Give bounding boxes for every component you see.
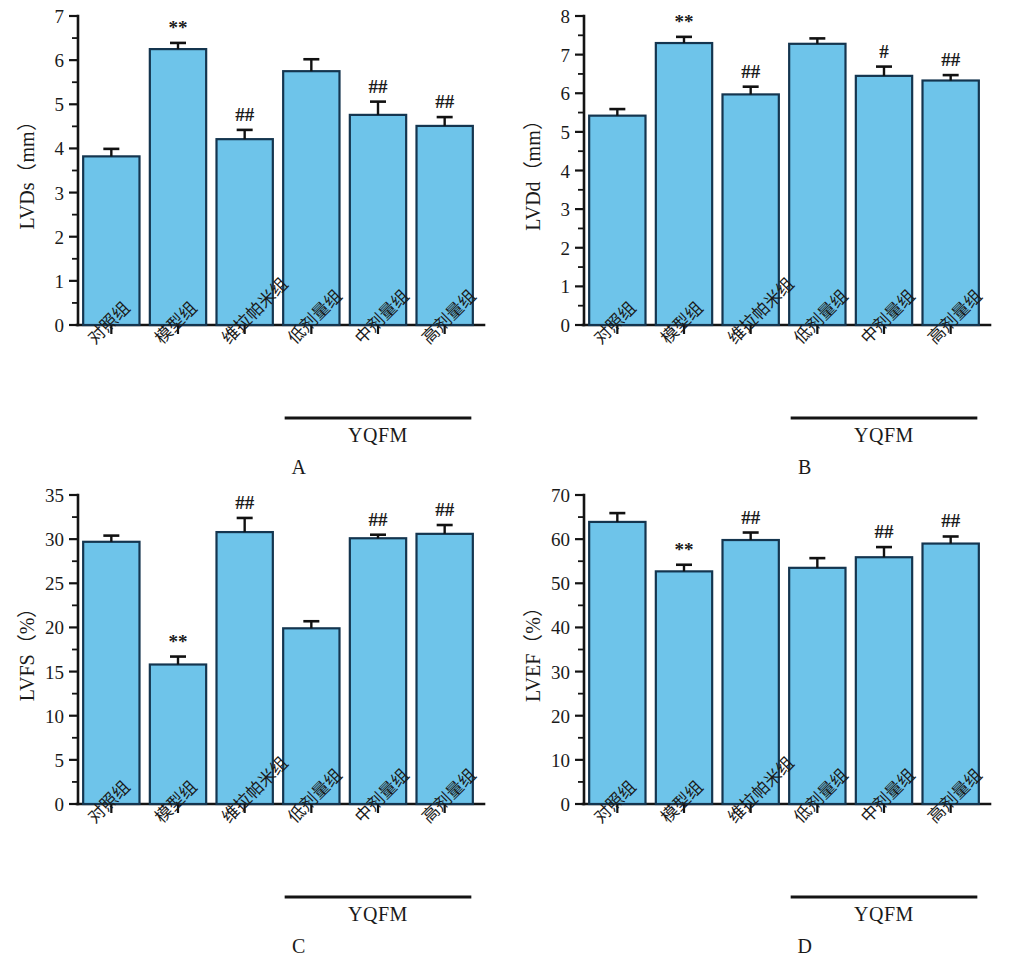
significance-marker: #	[879, 41, 889, 62]
y-tick-label: 50	[551, 573, 570, 594]
y-axis-title: LVDd（mm）	[522, 110, 544, 230]
y-tick-label: 1	[55, 271, 65, 292]
y-tick-label: 4	[55, 138, 65, 159]
y-tick-label: 35	[45, 485, 64, 506]
significance-marker: **	[169, 17, 188, 38]
bar	[217, 532, 273, 804]
significance-marker: ##	[435, 499, 455, 520]
bar	[150, 665, 206, 804]
group-bracket-label: YQFM	[348, 903, 408, 925]
y-axis-ticks: 01234567	[55, 6, 79, 336]
y-tick-label: 7	[561, 45, 571, 66]
y-tick-label: 4	[561, 161, 571, 182]
y-axis-ticks: 010203040506070	[551, 485, 584, 815]
significance-marker: ##	[235, 492, 255, 513]
bar-chart-d: 010203040506070LVEF（%）**######对照组模型组维拉帕米…	[506, 479, 1011, 958]
bar	[589, 522, 645, 804]
chart-panel-a: 01234567LVDs（mm）**######对照组模型组维拉帕米组低剂量组中…	[0, 0, 505, 479]
bar	[789, 44, 845, 325]
chart-panel-d: 010203040506070LVEF（%）**######对照组模型组维拉帕米…	[506, 479, 1011, 958]
significance-marker: ##	[435, 91, 455, 112]
significance-marker: ##	[235, 104, 255, 125]
y-tick-label: 10	[551, 750, 570, 771]
bar-chart-a: 01234567LVDs（mm）**######对照组模型组维拉帕米组低剂量组中…	[0, 0, 505, 479]
y-tick-label: 30	[45, 529, 64, 550]
significance-marker: **	[675, 11, 694, 32]
significance-marker: ##	[369, 509, 389, 530]
group-bracket: YQFM	[285, 897, 472, 925]
y-tick-label: 20	[45, 617, 64, 638]
bar	[350, 538, 406, 804]
group-bracket: YQFM	[791, 897, 978, 925]
bar	[150, 49, 206, 325]
significance-marker: ##	[741, 61, 761, 82]
bar-chart-c: 05101520253035LVFS（%）**######对照组模型组维拉帕米组…	[0, 479, 505, 958]
y-tick-label: 7	[55, 6, 65, 27]
y-tick-label: 60	[551, 529, 570, 550]
significance-marker: ##	[941, 49, 961, 70]
y-axis-title: LVFS（%）	[16, 598, 38, 702]
y-tick-label: 10	[45, 706, 64, 727]
chart-panel-c: 05101520253035LVFS（%）**######对照组模型组维拉帕米组…	[0, 479, 505, 958]
bar	[656, 571, 712, 804]
y-tick-label: 25	[45, 573, 64, 594]
y-tick-label: 6	[55, 50, 65, 71]
y-tick-label: 2	[55, 227, 65, 248]
chart-panel-b: 012345678LVDd（mm）**#####对照组模型组维拉帕米组低剂量组中…	[506, 0, 1011, 479]
group-bracket: YQFM	[791, 418, 978, 446]
bar	[656, 43, 712, 325]
group-bracket-label: YQFM	[854, 424, 914, 446]
y-tick-label: 3	[561, 199, 571, 220]
significance-marker: ##	[369, 76, 389, 97]
panel-letter: A	[291, 456, 306, 478]
bar	[83, 542, 139, 804]
y-tick-label: 6	[561, 83, 571, 104]
y-tick-label: 70	[551, 485, 570, 506]
group-bracket: YQFM	[285, 418, 472, 446]
y-tick-label: 5	[55, 750, 65, 771]
y-axis-title: LVEF（%）	[522, 597, 544, 702]
y-tick-label: 5	[561, 122, 571, 143]
significance-marker: ##	[741, 507, 761, 528]
bar-chart-b: 012345678LVDd（mm）**#####对照组模型组维拉帕米组低剂量组中…	[506, 0, 1011, 479]
y-axis-ticks: 012345678	[561, 6, 585, 336]
y-tick-label: 0	[55, 315, 65, 336]
panel-letter: B	[798, 456, 811, 478]
significance-marker: **	[675, 539, 694, 560]
y-tick-label: 15	[45, 662, 64, 683]
bar	[589, 116, 645, 325]
figure-root: 01234567LVDs（mm）**######对照组模型组维拉帕米组低剂量组中…	[0, 0, 1011, 958]
y-tick-label: 2	[561, 238, 571, 259]
y-tick-label: 1	[561, 276, 571, 297]
panel-letter: C	[292, 935, 305, 957]
y-tick-label: 0	[561, 315, 571, 336]
significance-marker: **	[169, 631, 188, 652]
bar	[417, 534, 473, 804]
y-tick-label: 30	[551, 662, 570, 683]
y-axis-title: LVDs（mm）	[16, 111, 38, 229]
bar	[83, 156, 139, 325]
y-tick-label: 40	[551, 617, 570, 638]
y-tick-label: 3	[55, 183, 65, 204]
group-bracket-label: YQFM	[348, 424, 408, 446]
significance-marker: ##	[941, 510, 961, 531]
significance-markers: **######	[675, 507, 961, 560]
y-tick-label: 0	[561, 794, 571, 815]
y-tick-label: 5	[55, 94, 65, 115]
panel-letter: D	[797, 935, 811, 957]
y-tick-label: 0	[55, 794, 65, 815]
y-axis-ticks: 05101520253035	[45, 485, 78, 815]
group-bracket-label: YQFM	[854, 903, 914, 925]
y-tick-label: 20	[551, 706, 570, 727]
significance-marker: ##	[875, 521, 895, 542]
y-tick-label: 8	[561, 6, 571, 27]
